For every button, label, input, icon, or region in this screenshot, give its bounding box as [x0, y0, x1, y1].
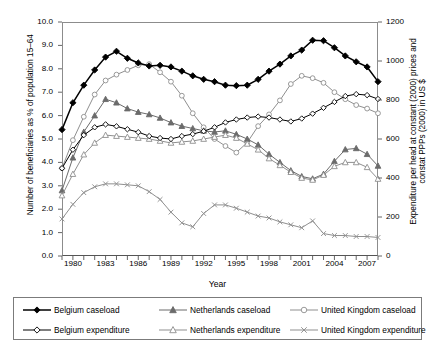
y-tick-label-left: 4.0 [13, 157, 53, 166]
open-circle-marker [289, 304, 319, 316]
legend-item[interactable]: Belgium caseload [22, 299, 120, 320]
y-tick-label-left: 7.0 [13, 87, 53, 96]
y-tick-label-left: 2.0 [13, 204, 53, 213]
y-tick-label-right: 200 [386, 212, 426, 221]
legend-label: Netherlands caseload [190, 305, 270, 315]
legend-label: Netherlands expenditure [190, 325, 280, 335]
axis-tick-marks [62, 22, 378, 256]
y-tick-label-right: 400 [386, 173, 426, 182]
legend-label: Belgium caseload [54, 305, 120, 315]
y-axis-left-title: Number of beneficiaries as % of populati… [26, 30, 35, 220]
legend-label: United Kingdom expenditure [321, 325, 426, 335]
y-tick-label-left: 1.0 [13, 228, 53, 237]
legend-label: Belgium expenditure [54, 325, 130, 335]
y-tick-label-left: 0.0 [13, 251, 53, 260]
y-tick-label-left: 5.0 [13, 134, 53, 143]
legend-item[interactable]: United Kingdom caseload [289, 299, 416, 320]
y-tick-label-right: 600 [386, 134, 426, 143]
y-tick-label-right: 1200 [386, 17, 426, 26]
legend-item[interactable]: United Kingdom expenditure [289, 319, 426, 340]
y-tick-label-left: 9.0 [13, 40, 53, 49]
y-tick-label-left: 8.0 [13, 64, 53, 73]
legend-item[interactable]: Belgium expenditure [22, 319, 130, 340]
filled-triangle-marker [158, 304, 188, 316]
filled-diamond-marker [22, 304, 52, 316]
legend: Belgium caseloadNetherlands caseloadUnit… [13, 297, 422, 340]
plot-area [62, 22, 378, 256]
y-tick-label-right: 1000 [386, 56, 426, 65]
y-tick-label-left: 6.0 [13, 111, 53, 120]
y-tick-label-left: 10.0 [13, 17, 53, 26]
chart-figure: Number of beneficiaries as % of populati… [0, 0, 435, 344]
y-tick-label-right: 0 [386, 251, 426, 260]
legend-item[interactable]: Netherlands caseload [158, 299, 270, 320]
x-axis-title: Year [0, 279, 435, 289]
y-tick-label-left: 3.0 [13, 181, 53, 190]
x-tick-label: 2007 [347, 259, 387, 268]
open-triangle-marker [158, 324, 188, 336]
open-diamond-marker [22, 324, 52, 336]
x-marker [289, 324, 319, 336]
legend-label: United Kingdom caseload [321, 305, 416, 315]
y-tick-label-right: 800 [386, 95, 426, 104]
legend-item[interactable]: Netherlands expenditure [158, 319, 280, 340]
